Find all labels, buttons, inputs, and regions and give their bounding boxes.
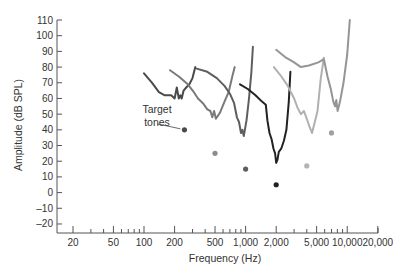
y-axis-title: Amplitude (dB SPL) (12, 79, 24, 171)
x-axis-title: Frequency (Hz) (189, 252, 261, 264)
y-tick-label: 90 (42, 46, 54, 57)
x-tick-label: 2,000 (264, 237, 289, 248)
x-tick-label: 1,000 (233, 237, 258, 248)
tone-1000-dot (243, 166, 248, 171)
tuning-curves (144, 20, 350, 163)
tone-250-dot (182, 127, 187, 132)
annotation-line-1: Target (142, 103, 171, 115)
annotation-line-2: tones (144, 116, 170, 128)
x-tick-label: 500 (207, 237, 224, 248)
tone-500-dot (212, 151, 217, 156)
x-tick-label: 5,000 (304, 237, 329, 248)
y-tick-label: 30 (42, 140, 54, 151)
y-tick-label: 110 (37, 15, 53, 26)
target-tones-annotation: Targettones (142, 103, 180, 129)
y-tick-label: 60 (42, 93, 54, 104)
y-tick-label: –10 (36, 203, 53, 214)
y-tick-label: 40 (42, 124, 54, 135)
y-tick-label: 10 (42, 171, 54, 182)
target-tones (182, 127, 334, 187)
y-tick-label: 80 (42, 62, 54, 73)
tuning-curve-4000Hz (274, 58, 324, 133)
y-tick-label: 70 (42, 77, 54, 88)
tuning-curve-7000Hz (276, 20, 350, 111)
x-tick-label: 20 (67, 237, 79, 248)
y-tick-label: 100 (36, 30, 53, 41)
y-axis: 1101009080706050403020100–10–20 (36, 15, 62, 234)
y-tick-label: 0 (47, 187, 53, 198)
y-tick-label: 50 (42, 109, 54, 120)
tuning-curve-500Hz (170, 67, 235, 119)
x-axis: 20501002005001,0002,0005,00010,00020,000 (57, 226, 394, 248)
x-tick-label: 200 (166, 237, 183, 248)
y-tick-label: –20 (36, 218, 53, 229)
tone-7000-dot (329, 130, 334, 135)
tuning-curve-1000Hz (197, 47, 253, 136)
tone-4000-dot (304, 163, 309, 168)
tuning-curves-chart: 1101009080706050403020100–10–20 20501002… (0, 0, 407, 277)
x-tick-label: 20,000 (363, 237, 394, 248)
tone-2000-dot (274, 182, 279, 187)
y-tick-label: 20 (42, 156, 54, 167)
x-tick-label: 50 (108, 237, 120, 248)
x-tick-label: 100 (136, 237, 153, 248)
tuning-curve-250Hz (144, 67, 195, 98)
x-tick-label: 10,000 (332, 237, 363, 248)
